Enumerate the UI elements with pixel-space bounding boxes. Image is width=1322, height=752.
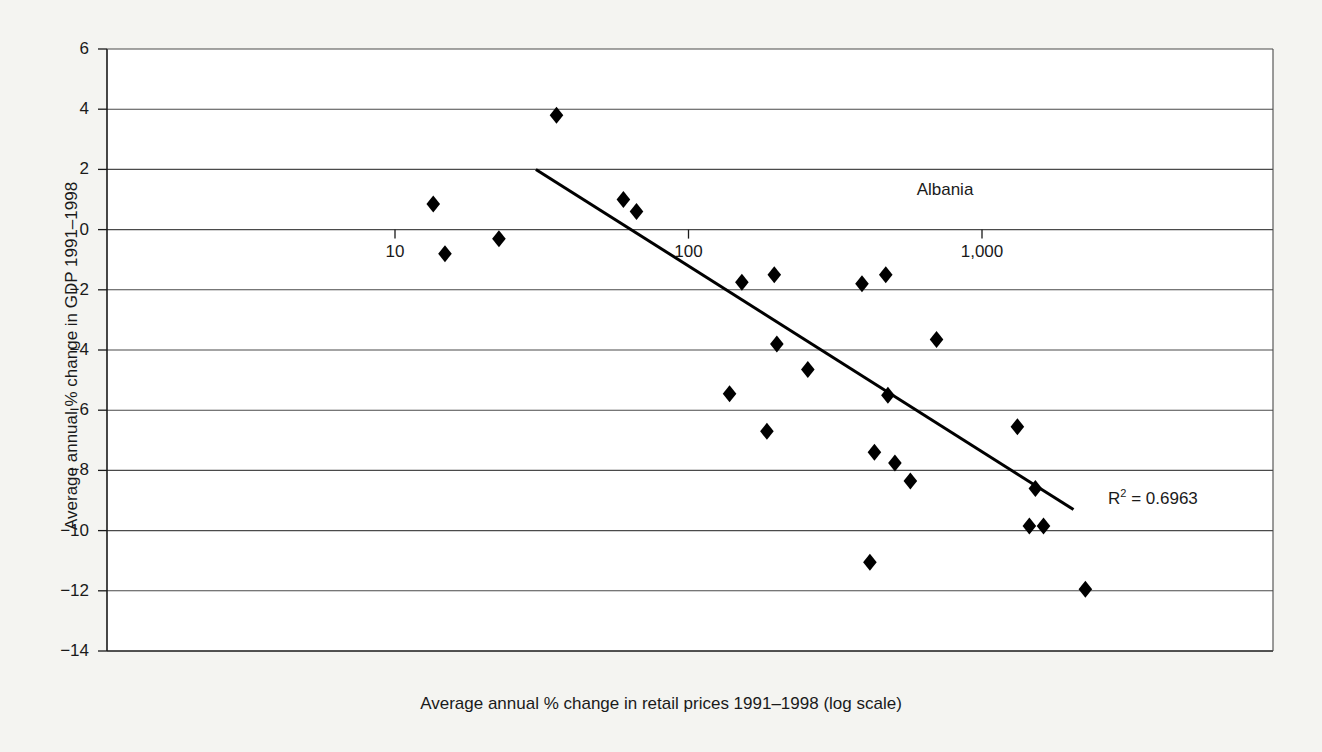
chart-figure: 6420−2−4−6−8−10−12−14 101001,000 Albania… (0, 0, 1322, 752)
x-axis-title: Average annual % change in retail prices… (420, 694, 902, 714)
y-tick-label: −14 (29, 641, 89, 661)
y-tick-label: −12 (29, 581, 89, 601)
r-squared-value: = 0.6963 (1131, 489, 1198, 508)
r-squared-annotation: R2 = 0.6963 (1108, 487, 1198, 509)
scatter-plot-canvas (0, 0, 1322, 752)
r-squared-exponent: 2 (1120, 487, 1126, 499)
y-axis-tick-marks (98, 49, 107, 651)
x-tick-label: 1,000 (961, 242, 1004, 262)
albania-annotation: Albania (917, 180, 974, 200)
y-tick-label: 6 (29, 39, 89, 59)
y-tick-label: 2 (29, 159, 89, 179)
x-tick-label: 10 (386, 242, 405, 262)
x-tick-label: 100 (674, 242, 702, 262)
r-squared-symbol: R (1108, 489, 1120, 508)
y-tick-label: 4 (29, 99, 89, 119)
y-axis-title: Average annual % change in GDP 1991–1998 (62, 182, 82, 530)
